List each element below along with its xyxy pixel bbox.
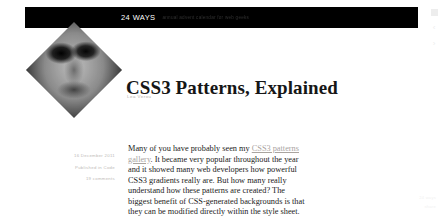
footer-mark-primary: 24 ways — [419, 193, 436, 202]
article-title: CSS3 Patterns, Explained — [126, 77, 338, 99]
chevron-left-icon[interactable]: ‹ — [433, 23, 436, 32]
author-portrait-image — [26, 22, 122, 118]
author-portrait — [26, 22, 122, 118]
article-body-text-before-link: Many of you have probably seen my — [128, 144, 252, 153]
article-byline[interactable]: Lea Verou — [127, 94, 152, 99]
article-comment-count[interactable]: 19 comments — [40, 173, 115, 185]
site-header: 24 WAYS annual advent calendar for web g… — [25, 7, 418, 28]
article-date: 16 December 2011 — [40, 150, 115, 162]
article-body: Many of you have probably seen my CSS3 p… — [128, 144, 310, 217]
article-body-text-after-link: . It became very popular throughout the … — [128, 155, 305, 217]
site-tagline: annual advent calendar for web geeks — [162, 15, 249, 20]
article-category[interactable]: Published in Code — [40, 162, 115, 174]
site-logo[interactable]: 24 WAYS — [121, 13, 155, 22]
footer-mark-secondary: share — [419, 202, 436, 211]
viewport-controls: ‹ › — [427, 9, 441, 48]
article-meta: 16 December 2011 Published in Code 19 co… — [40, 150, 115, 185]
chevron-right-icon[interactable]: › — [433, 39, 436, 48]
footer-marks: 24 ways share — [419, 193, 436, 211]
panel-icon[interactable] — [431, 9, 438, 16]
